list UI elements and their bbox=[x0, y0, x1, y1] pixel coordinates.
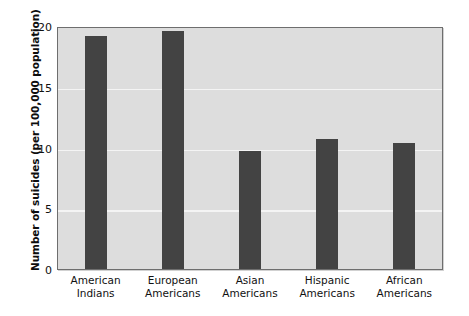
y-tick-label: 20 bbox=[30, 22, 52, 33]
x-axis-tick-labels: AmericanIndiansEuropeanAmericansAsianAme… bbox=[57, 274, 443, 300]
x-tick-label: EuropeanAmericans bbox=[137, 274, 209, 300]
x-tick-label: AmericanIndians bbox=[60, 274, 132, 300]
bar bbox=[316, 139, 338, 269]
x-tick-label-line: Americans bbox=[214, 287, 286, 300]
x-tick-label: HispanicAmericans bbox=[291, 274, 363, 300]
bar bbox=[85, 36, 107, 269]
x-tick-label-line: African bbox=[368, 274, 440, 287]
x-tick-label-line: Americans bbox=[291, 287, 363, 300]
bar bbox=[239, 151, 261, 269]
y-tick-label: 5 bbox=[30, 204, 52, 215]
y-tick-label: 10 bbox=[30, 143, 52, 154]
x-tick-label: AsianAmericans bbox=[214, 274, 286, 300]
plot-area bbox=[57, 27, 443, 270]
x-tick-label-line: Indians bbox=[60, 287, 132, 300]
x-tick-label-line: Americans bbox=[368, 287, 440, 300]
x-tick-label-line: Hispanic bbox=[291, 274, 363, 287]
y-tick-label: 0 bbox=[30, 265, 52, 276]
bar bbox=[393, 143, 415, 269]
x-tick-label-line: European bbox=[137, 274, 209, 287]
x-tick-label: AfricanAmericans bbox=[368, 274, 440, 300]
x-tick-label-line: Americans bbox=[137, 287, 209, 300]
y-axis-tick-labels: 20151050 bbox=[30, 27, 52, 270]
x-tick-label-line: American bbox=[60, 274, 132, 287]
y-tick-label: 15 bbox=[30, 82, 52, 93]
x-tick-label-line: Asian bbox=[214, 274, 286, 287]
bar bbox=[162, 31, 184, 269]
bar-chart-figure: Number of suicides (per 100,000 populati… bbox=[0, 0, 469, 316]
bars-group bbox=[58, 28, 442, 269]
